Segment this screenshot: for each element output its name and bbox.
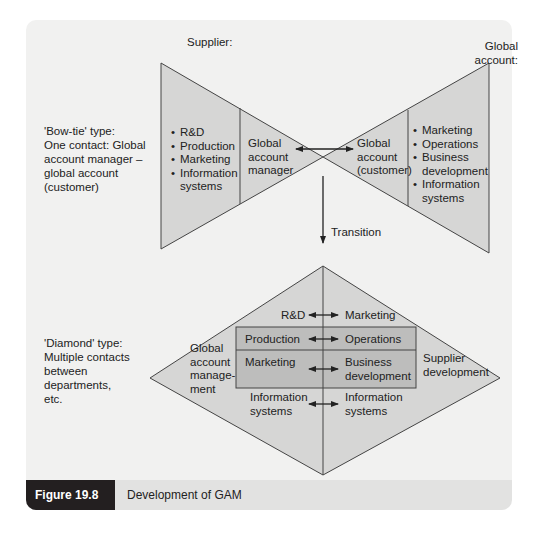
heading-line: Global — [458, 40, 518, 54]
description-line: departments, — [44, 378, 130, 392]
label-line: manage- — [190, 369, 235, 383]
figure-caption: Figure 19.8 Development of GAM — [26, 480, 512, 510]
label-line: manager — [248, 164, 293, 178]
label-line: account — [248, 151, 293, 165]
pair-left-marketing: Marketing — [245, 356, 296, 370]
diamond-description: 'Diamond' type: Multiple contacts betwee… — [44, 336, 130, 406]
figure-number: Figure 19.8 — [26, 480, 115, 510]
global-account-customer-label: Global account (customer) — [357, 137, 412, 178]
supplier-departments: R&D Production Marketing Information sys… — [171, 126, 241, 194]
label-line: account — [190, 356, 235, 370]
transition-label: Transition — [331, 226, 381, 240]
figure-title: Development of GAM — [115, 480, 242, 510]
description-line: (customer) — [44, 180, 146, 194]
label-line: ment — [190, 383, 235, 397]
department-item: Marketing — [413, 124, 493, 138]
department-item: Marketing — [171, 153, 241, 167]
description-line: etc. — [44, 392, 130, 406]
description-line: 'Bow-tie' type: — [44, 124, 146, 138]
pair-left-production: Production — [245, 333, 300, 347]
description-line: Multiple contacts — [44, 350, 130, 364]
pair-right-information-systems: Information systems — [345, 391, 407, 418]
description-line: One contact: Global — [44, 138, 146, 152]
supplier-development-label: Supplier development — [423, 352, 489, 379]
heading-line: account: — [458, 54, 518, 68]
global-account-manager-label: Global account manager — [248, 137, 293, 178]
label-line: (customer) — [357, 164, 412, 178]
label-line: Global — [248, 137, 293, 151]
supplier-heading: Supplier: — [187, 36, 232, 50]
description-line: account manager – — [44, 152, 146, 166]
customer-departments: Marketing Operations Business developmen… — [413, 124, 493, 205]
description-line: 'Diamond' type: — [44, 336, 130, 350]
department-item: Information systems — [171, 167, 241, 194]
label-line: Supplier — [423, 352, 489, 366]
diagram-shapes — [0, 0, 541, 541]
pair-right-marketing: Marketing — [345, 309, 396, 323]
department-item: R&D — [171, 126, 241, 140]
label-line: development — [423, 366, 489, 380]
pair-right-business-development: Business development — [345, 356, 417, 383]
department-item: Business development — [413, 151, 493, 178]
department-item: Production — [171, 140, 241, 154]
department-item: Information systems — [413, 178, 493, 205]
label-line: account — [357, 151, 412, 165]
department-item: Operations — [413, 138, 493, 152]
global-account-heading: Global account: — [458, 40, 518, 67]
pair-left-rd: R&D — [281, 309, 305, 323]
label-line: Global — [357, 137, 412, 151]
label-line: Global — [190, 342, 235, 356]
description-line: global account — [44, 166, 146, 180]
bowtie-description: 'Bow-tie' type: One contact: Global acco… — [44, 124, 146, 194]
description-line: between — [44, 364, 130, 378]
global-account-management-label: Global account manage- ment — [190, 342, 235, 396]
pair-right-operations: Operations — [345, 333, 401, 347]
pair-left-information-systems: Information systems — [250, 391, 312, 418]
